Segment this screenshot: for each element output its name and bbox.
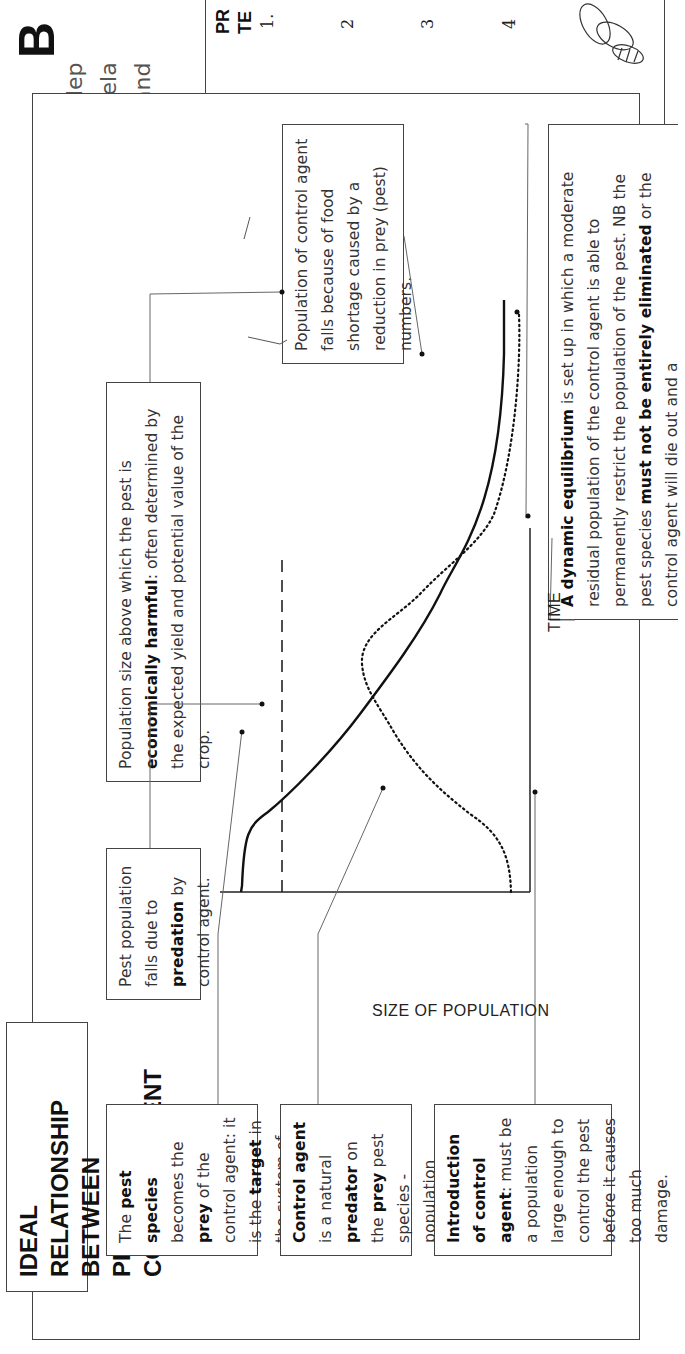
x-axis-label: TIME — [546, 592, 564, 632]
pest-population-line — [241, 300, 504, 892]
leader-lines — [150, 124, 575, 1104]
graph-axes — [220, 528, 530, 892]
leader-dots — [240, 290, 538, 795]
y-axis-label: SIZE OF POPULATION — [372, 1002, 550, 1020]
agent-population-line — [362, 314, 519, 892]
